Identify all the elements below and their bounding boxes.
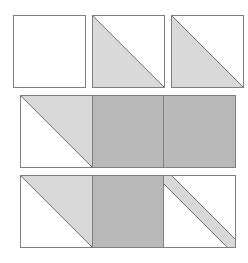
dark-square [164, 96, 236, 168]
row-3 [21, 176, 236, 248]
half-square-triangle-unit [93, 16, 165, 88]
plain-white-square [14, 16, 86, 88]
quilt-diagram [0, 0, 248, 263]
row-2 [21, 96, 236, 168]
dark-square [93, 176, 164, 248]
diagonal-strip-unit [164, 176, 236, 248]
half-square-triangle-unit [172, 16, 244, 88]
dark-square [93, 96, 164, 168]
half-square-triangle-unit [21, 96, 93, 168]
row-1 [14, 16, 244, 88]
half-square-triangle-unit [21, 176, 93, 248]
